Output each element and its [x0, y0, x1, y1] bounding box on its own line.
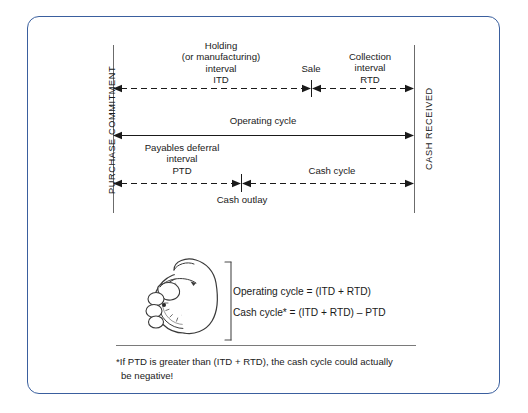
cash-received-label: CASH RECEIVED — [424, 87, 434, 170]
operating-cycle-formula: Operating cycle = (ITD + RTD) — [233, 281, 473, 302]
sale-event-label: Sale — [290, 63, 332, 74]
holding-interval-line-2: (or manufacturing) — [129, 51, 313, 62]
payables-deferral-line-3: PTD — [120, 165, 244, 176]
cash-outlay-label: Cash outlay — [200, 194, 284, 205]
footnote-divider — [116, 345, 416, 346]
cash-cycle-label: Cash cycle — [272, 165, 392, 176]
holding-interval-label: Holding (or manufacturing) interval ITD — [129, 40, 313, 86]
cash-cycle-timeline-diagram: PURCHASE COMMITMENT CASH RECEIVED Holdin… — [28, 17, 501, 395]
collection-interval-line-1: Collection — [328, 51, 412, 62]
footnote-line-1: *If PTD is greater than (ITD + RTD), the… — [116, 356, 393, 367]
formula-block: Operating cycle = (ITD + RTD) Cash cycle… — [233, 281, 473, 323]
payables-deferral-line-1: Payables deferral — [120, 142, 244, 153]
cash-cycle-formula: Cash cycle* = (ITD + RTD) – PTD — [233, 302, 473, 323]
holding-interval-line-1: Holding — [129, 40, 313, 51]
payables-deferral-arrow — [113, 178, 241, 189]
cash-received-axis-line — [414, 45, 415, 213]
holding-interval-arrow — [113, 83, 311, 94]
collection-interval-arrow — [312, 83, 414, 94]
footnote: *If PTD is greater than (ITD + RTD), the… — [116, 355, 428, 383]
footnote-line-2: be negative! — [116, 369, 428, 383]
figure-frame: PURCHASE COMMITMENT CASH RECEIVED Holdin… — [27, 16, 500, 394]
payables-deferral-line-2: interval — [120, 153, 244, 164]
operating-cycle-label: Operating cycle — [198, 115, 328, 126]
holding-interval-line-3: interval — [129, 63, 313, 74]
cash-cycle-arrow — [242, 178, 414, 189]
collection-interval-label: Collection interval RTD — [328, 51, 412, 85]
collection-interval-line-2: interval — [328, 62, 412, 73]
operating-cycle-arrow — [113, 130, 414, 141]
payables-deferral-label: Payables deferral interval PTD — [120, 142, 244, 176]
